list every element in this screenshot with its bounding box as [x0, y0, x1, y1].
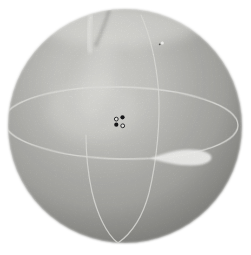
- globe-photo-figure: [0, 0, 251, 255]
- globe-photo-canvas: [0, 0, 251, 255]
